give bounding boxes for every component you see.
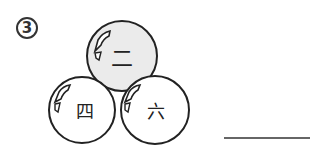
ball-label: 六 [147,101,165,122]
ball-bottom-left: 四 [49,77,115,143]
ball-label: 二 [111,46,133,71]
answer-blank[interactable] [224,137,310,139]
balls-illustration: 二 四 六 [0,0,333,151]
ball-bottom-right: 六 [121,76,189,144]
ball-label: 四 [76,101,94,122]
